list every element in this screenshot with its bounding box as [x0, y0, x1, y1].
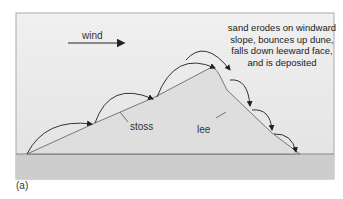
description-line: and is deposited — [222, 57, 342, 69]
description-line: falls down leeward face, — [222, 45, 342, 57]
lee-label: lee — [197, 124, 210, 135]
description-line: slope, bounces up dune, — [222, 34, 342, 46]
ground — [16, 154, 334, 179]
process-description: sand erodes on windward slope, bounces u… — [222, 22, 342, 68]
wind-label: wind — [82, 30, 103, 41]
stoss-label: stoss — [130, 121, 153, 132]
panel-label: (a) — [16, 180, 28, 191]
description-line: sand erodes on windward — [222, 22, 342, 34]
